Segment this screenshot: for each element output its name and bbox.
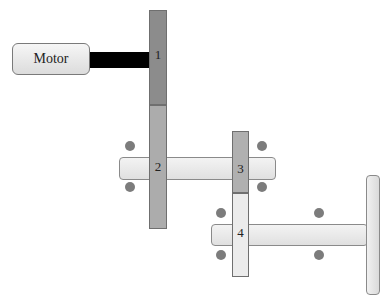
gear-3: 3 [232, 131, 249, 193]
intermediate-shaft [119, 157, 276, 180]
bearing-dot [314, 250, 324, 260]
gear-1: 1 [149, 10, 167, 105]
gear-4-label: 4 [237, 225, 244, 241]
gear-3-label: 3 [237, 161, 244, 177]
bearing-dot [125, 141, 135, 151]
gear-2: 2 [149, 105, 167, 229]
motor-box: Motor [12, 43, 90, 75]
output-wheel [366, 175, 380, 295]
gear-1-label: 1 [155, 47, 162, 63]
bearing-dot [216, 250, 226, 260]
bearing-dot [125, 182, 135, 192]
gear-2-label: 2 [155, 159, 162, 175]
bearing-dot [314, 208, 324, 218]
bearing-dot [257, 182, 267, 192]
gear-4: 4 [232, 193, 249, 277]
motor-shaft [90, 52, 150, 68]
bearing-dot [257, 141, 267, 151]
bearing-dot [216, 208, 226, 218]
motor-label: Motor [34, 51, 69, 67]
